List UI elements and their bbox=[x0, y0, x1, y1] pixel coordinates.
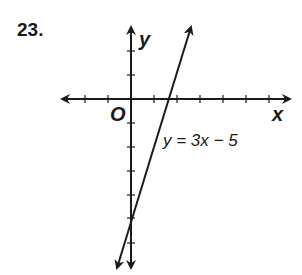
y-axis-label: y bbox=[138, 28, 151, 50]
origin-label: O bbox=[110, 103, 126, 125]
x-axis bbox=[62, 95, 290, 103]
coordinate-graph: y x O y = 3x − 5 bbox=[0, 0, 302, 275]
equation-label: y = 3x − 5 bbox=[162, 131, 238, 150]
x-axis-label: x bbox=[271, 103, 284, 125]
